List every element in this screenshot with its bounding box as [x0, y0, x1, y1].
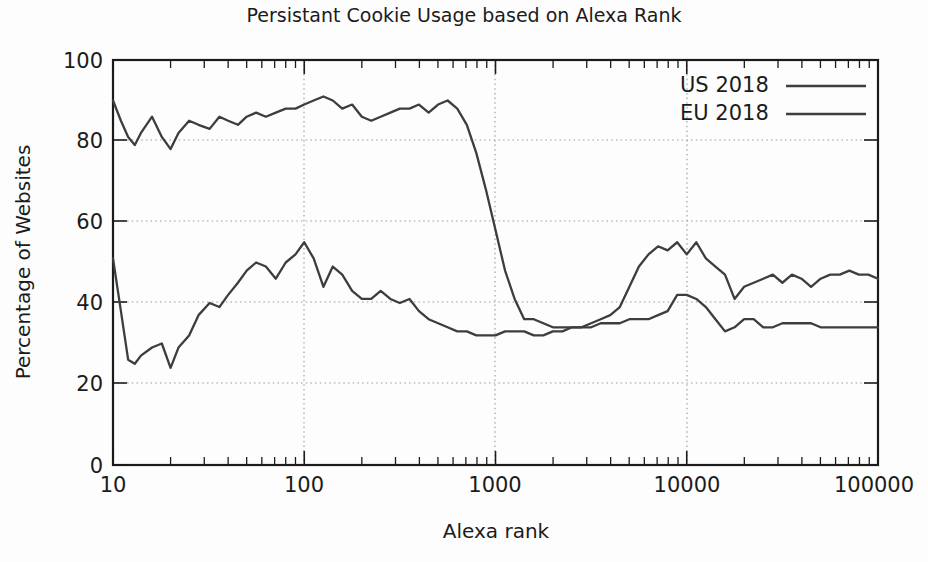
- x-axis-label: Alexa rank: [443, 519, 550, 543]
- legend-label-eu-2018: EU 2018: [680, 101, 769, 125]
- xtick-label-100: 100: [284, 473, 324, 497]
- ytick-label-100: 100: [63, 49, 103, 73]
- xtick-label-100000: 100000: [834, 473, 914, 497]
- ytick-label-80: 80: [76, 129, 103, 153]
- ytick-label-20: 20: [76, 372, 103, 396]
- legend-label-us-2018: US 2018: [680, 73, 769, 97]
- xtick-label-10: 10: [100, 473, 127, 497]
- y-axis-label: Percentage of Websites: [11, 145, 35, 380]
- xtick-label-1000: 1000: [468, 473, 521, 497]
- vertical-gridlines: [304, 60, 687, 465]
- chart-legend: US 2018 EU 2018: [672, 66, 874, 126]
- chart-figure: Persistant Cookie Usage based on Alexa R…: [0, 0, 928, 562]
- data-series-group: [113, 96, 878, 367]
- horizontal-gridlines: [113, 140, 878, 383]
- ytick-label-60: 60: [76, 210, 103, 234]
- ytick-label-40: 40: [76, 291, 103, 315]
- line-chart-canvas: Persistant Cookie Usage based on Alexa R…: [0, 0, 928, 562]
- chart-title: Persistant Cookie Usage based on Alexa R…: [247, 4, 682, 26]
- xtick-label-10000: 10000: [654, 473, 721, 497]
- x-tick-labels: 10 100 1000 10000 100000: [100, 473, 914, 497]
- y-tick-labels: 0 20 40 60 80 100: [63, 49, 103, 478]
